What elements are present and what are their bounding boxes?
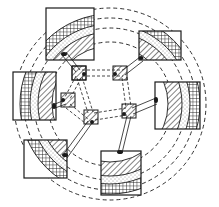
node-n5 [84, 110, 98, 124]
node-n2 [113, 66, 127, 80]
node-n3 [61, 93, 75, 107]
ring-bands [20, 14, 200, 194]
central-nodes [61, 66, 136, 124]
node-n4 [122, 104, 136, 118]
ring-network-diagram [0, 0, 219, 207]
node-n1 [72, 66, 86, 80]
outer-blocks [13, 8, 200, 195]
